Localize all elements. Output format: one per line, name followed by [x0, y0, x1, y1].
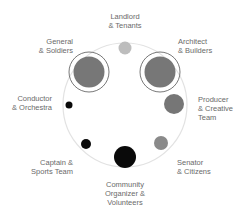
senator-label-line2: & Citizens	[177, 167, 211, 176]
conductor-node	[66, 102, 73, 109]
senator-label: Senator & Citizens	[177, 158, 211, 176]
general-label-line1: General	[39, 37, 73, 46]
landlord-node	[119, 42, 132, 55]
landlord-label: Landlord & Tenants	[104, 12, 146, 30]
architect-label: Architect & Builders	[178, 37, 212, 55]
captain-node	[81, 139, 91, 149]
senator-node	[154, 136, 168, 150]
conductor-label-line2: & Orchestra	[12, 103, 52, 112]
conductor-label: Conductor & Orchestra	[12, 94, 52, 112]
general-node	[74, 57, 105, 88]
senator-label-line1: Senator	[177, 158, 211, 167]
community-label-line1: Community	[95, 180, 155, 189]
captain-label: Captain & Sports Team	[31, 158, 73, 176]
community-label: Community Organizer & Volunteers	[95, 180, 155, 207]
producer-label: Producer & Creative Team	[198, 95, 233, 122]
producer-label-line3: Team	[198, 113, 233, 122]
general-label-line2: & Soldiers	[39, 46, 73, 55]
community-label-line3: Volunteers	[95, 198, 155, 207]
community-node	[114, 146, 136, 168]
producer-label-line1: Producer	[198, 95, 233, 104]
producer-label-line2: & Creative	[198, 104, 233, 113]
captain-label-line2: Sports Team	[31, 167, 73, 176]
community-label-line2: Organizer &	[95, 189, 155, 198]
architect-node	[145, 57, 176, 88]
producer-node	[164, 94, 184, 114]
general-label: General & Soldiers	[39, 37, 73, 55]
landlord-label-line1: Landlord	[104, 12, 146, 21]
architect-label-line2: & Builders	[178, 46, 212, 55]
conductor-label-line1: Conductor	[12, 94, 52, 103]
captain-label-line1: Captain &	[31, 158, 73, 167]
landlord-label-line2: & Tenants	[104, 21, 146, 30]
architect-label-line1: Architect	[178, 37, 212, 46]
